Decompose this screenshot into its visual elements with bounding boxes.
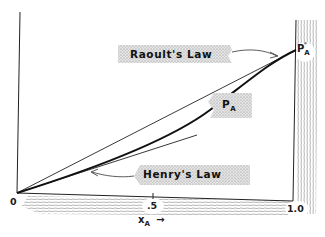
diagram-canvas <box>0 0 325 237</box>
x-axis-label-sub: A <box>144 220 149 228</box>
diagram: Raoult's Law Henry's Law PA PA° 0 .5 1.0… <box>0 0 325 237</box>
raoult-label: Raoult's Law <box>130 48 212 60</box>
raoult-arrow <box>232 50 277 56</box>
pa-pure-label-sub: A <box>304 49 309 57</box>
henry-label: Henry's Law <box>143 168 222 180</box>
pa-pure-label-sup: ° <box>304 41 307 49</box>
pa-curve-label-sub: A <box>230 105 236 113</box>
right-arrow-icon: → <box>156 214 164 225</box>
right-boundary <box>293 20 296 201</box>
henry-arrow <box>92 172 134 177</box>
x-axis-label: xA → <box>138 214 165 225</box>
y-axis <box>17 12 20 193</box>
x-origin-label: 0 <box>10 196 17 207</box>
pa-curve-label: PA <box>222 98 236 110</box>
x-mid-label: .5 <box>147 200 157 211</box>
x-end-label: 1.0 <box>287 203 304 214</box>
pa-pure-label: PA° <box>297 43 307 54</box>
